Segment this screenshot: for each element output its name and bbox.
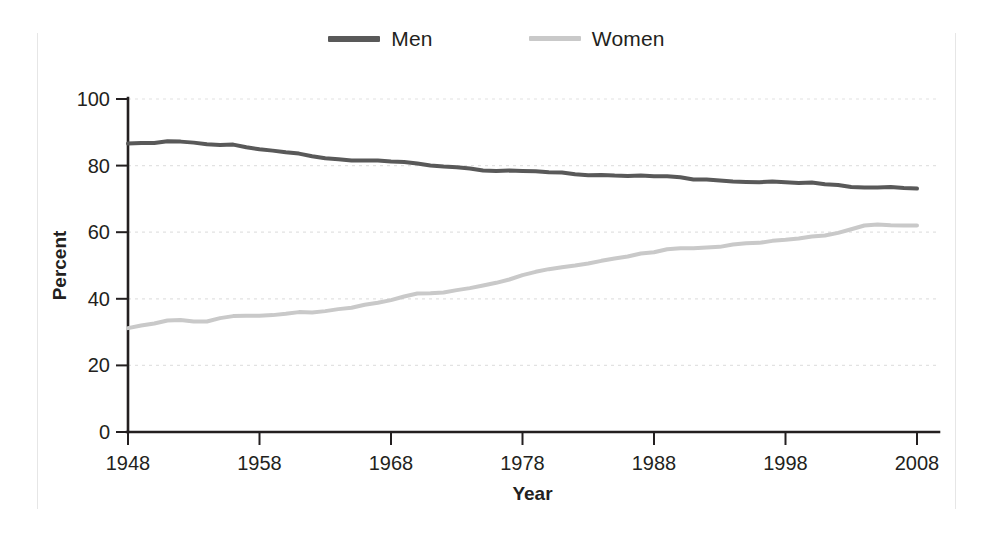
x-tick-label-1978: 1978 xyxy=(500,452,545,474)
x-tick-label-1958: 1958 xyxy=(237,452,282,474)
series-group xyxy=(128,141,917,328)
x-axis-title: Year xyxy=(512,483,553,504)
y-tick-label-20: 20 xyxy=(88,354,110,376)
y-tick-label-0: 0 xyxy=(99,421,110,443)
x-tick-label-1988: 1988 xyxy=(632,452,677,474)
series-line-women xyxy=(128,225,917,329)
y-tick-label-100: 100 xyxy=(77,88,110,110)
x-tick-label-1948: 1948 xyxy=(106,452,151,474)
gridlines-group xyxy=(128,99,939,365)
series-line-men xyxy=(128,141,917,188)
y-tick-label-80: 80 xyxy=(88,155,110,177)
y-axis-title: Percent xyxy=(49,230,70,300)
line-chart-svg: 0204060801001948195819681978198819982008… xyxy=(0,0,993,542)
x-tick-label-1968: 1968 xyxy=(369,452,414,474)
y-tick-label-60: 60 xyxy=(88,221,110,243)
y-tick-label-40: 40 xyxy=(88,288,110,310)
x-tick-label-2008: 2008 xyxy=(895,452,940,474)
plot-area: 0204060801001948195819681978198819982008… xyxy=(0,0,993,542)
x-tick-label-1998: 1998 xyxy=(763,452,808,474)
chart-page: Men Women 020406080100194819581968197819… xyxy=(0,0,993,542)
